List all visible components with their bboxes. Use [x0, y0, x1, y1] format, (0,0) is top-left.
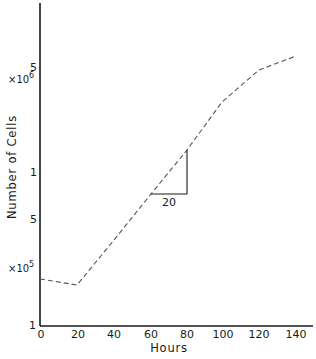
x-tick-label: 100	[213, 328, 234, 341]
multiplier-base: ×10	[8, 263, 29, 274]
multiplier-exponent: 5	[29, 260, 34, 269]
x-tick-labels: 0 20 40 60 80 100 120 140	[38, 328, 307, 341]
x-tick-label: 40	[107, 328, 121, 341]
x-tick-label: 20	[71, 328, 85, 341]
growth-curve	[40, 56, 296, 285]
multiplier-exponent: 6	[29, 71, 34, 80]
y-multiplier-lower: ×105	[8, 260, 34, 274]
y-tick-labels: 1 5 1 5	[29, 61, 37, 332]
x-tick-label: 80	[180, 328, 194, 341]
y-tick-label: 5	[30, 213, 37, 226]
multiplier-base: ×10	[8, 74, 29, 85]
y-tick-label: 1	[30, 166, 37, 179]
x-tick-label: 0	[38, 328, 45, 341]
growth-chart: 0 20 40 60 80 100 120 140 1 5 1 5 ×105 ×…	[0, 0, 316, 359]
y-tick-label: 1	[29, 319, 36, 332]
doubling-time-triangle: 20	[151, 150, 187, 209]
x-tick-label: 120	[249, 328, 270, 341]
y-axis-title: Number of Cells	[5, 115, 19, 219]
x-axis-title: Hours	[150, 341, 188, 355]
y-multiplier-upper: ×106	[8, 71, 34, 85]
x-tick-label: 140	[286, 328, 307, 341]
triangle-label: 20	[162, 196, 176, 209]
x-tick-label: 60	[144, 328, 158, 341]
